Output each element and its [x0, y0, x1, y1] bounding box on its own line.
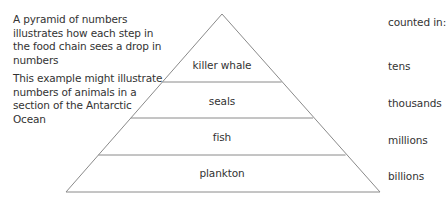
tier-label-killer-whale: killer whale [193, 59, 252, 72]
count-unit-thousands: thousands [388, 97, 442, 110]
count-unit-billions: billions [388, 170, 424, 183]
tier-label-fish: fish [213, 131, 231, 144]
tier-label-plankton: plankton [199, 167, 244, 180]
tier-label-seals: seals [209, 95, 235, 108]
count-unit-tens: tens [388, 60, 410, 73]
counted-in-header: counted in: [388, 16, 446, 29]
count-unit-millions: millions [388, 134, 428, 147]
